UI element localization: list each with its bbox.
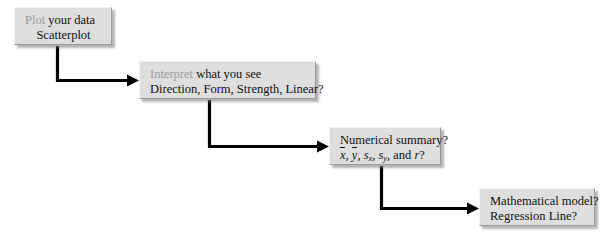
node-plot-line-1: Plot your data [25,13,102,28]
node-numerical-summary[interactable]: Numerical summary? x, y, sx, sy, and r? [329,127,441,165]
notation-terminator: ? [419,148,425,162]
node-plot-line-2: Scatterplot [25,28,102,43]
flowchart-canvas: Plot your data Scatterplot Interpret wha… [0,0,611,237]
node-plot-line-1-rest: your data [45,13,95,27]
node-plot-your-data[interactable]: Plot your data Scatterplot [14,7,112,45]
node-interpret-line-1-rest: what you see [193,67,261,81]
node-plot-keyword: Plot [25,13,45,27]
node-mathematical-model[interactable]: Mathematical model? Regression Line? [479,188,595,226]
node-numerical-notation: x, y, sx, sy, and r? [340,148,431,163]
x-bar-symbol: x [340,148,346,163]
node-interpret-what-you-see[interactable]: Interpret what you see Direction, Form, … [139,61,316,99]
node-interpret-line-2: Direction, Form, Strength, Linear? [150,82,306,97]
notation-conjunction: and [393,148,411,162]
node-model-line-1: Mathematical model? [490,194,585,209]
node-interpret-keyword: Interpret [150,67,193,81]
y-bar-symbol: y [352,148,358,163]
node-model-line-2: Regression Line? [490,209,585,224]
node-interpret-line-1: Interpret what you see [150,67,306,82]
node-numerical-line-1: Numerical summary? [340,133,431,148]
